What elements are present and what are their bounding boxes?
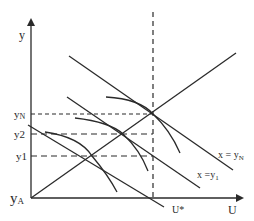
economics-diagram: y U yA yN y2 y1 x = yN x =y1 U* [0, 0, 254, 221]
xN-line-label-sub: N [239, 154, 244, 162]
line-x-equals-y1 [67, 97, 200, 188]
y-axis-label: y [19, 28, 25, 42]
y1-label: y1 [16, 150, 27, 162]
x-axis-label: U [228, 203, 237, 217]
x1-line-label-sub: 1 [215, 174, 219, 182]
x1-line-label-main: x =y [197, 169, 215, 180]
origin-label-sub: A [18, 196, 25, 206]
u-star-label: U* [172, 204, 184, 215]
x1-line-label: x =y1 [197, 169, 219, 182]
yN-label: yN [14, 108, 26, 121]
line-through-u-star [28, 125, 164, 207]
xN-line-label: x = yN [218, 149, 244, 162]
y2-label: y2 [14, 128, 25, 140]
origin-label: yA [10, 190, 25, 206]
yN-label-sub: N [20, 112, 26, 121]
xN-line-label-main: x = y [218, 149, 239, 160]
diagram-canvas: y U yA yN y2 y1 x = yN x =y1 U* [0, 0, 254, 221]
